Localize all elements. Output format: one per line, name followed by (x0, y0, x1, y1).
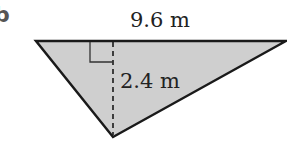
triangle-diagram: b 9.6 m 2.4 m (0, 0, 287, 161)
height-label: 2.4 m (120, 69, 180, 93)
part-label: b (0, 2, 10, 27)
base-label: 9.6 m (130, 8, 190, 32)
